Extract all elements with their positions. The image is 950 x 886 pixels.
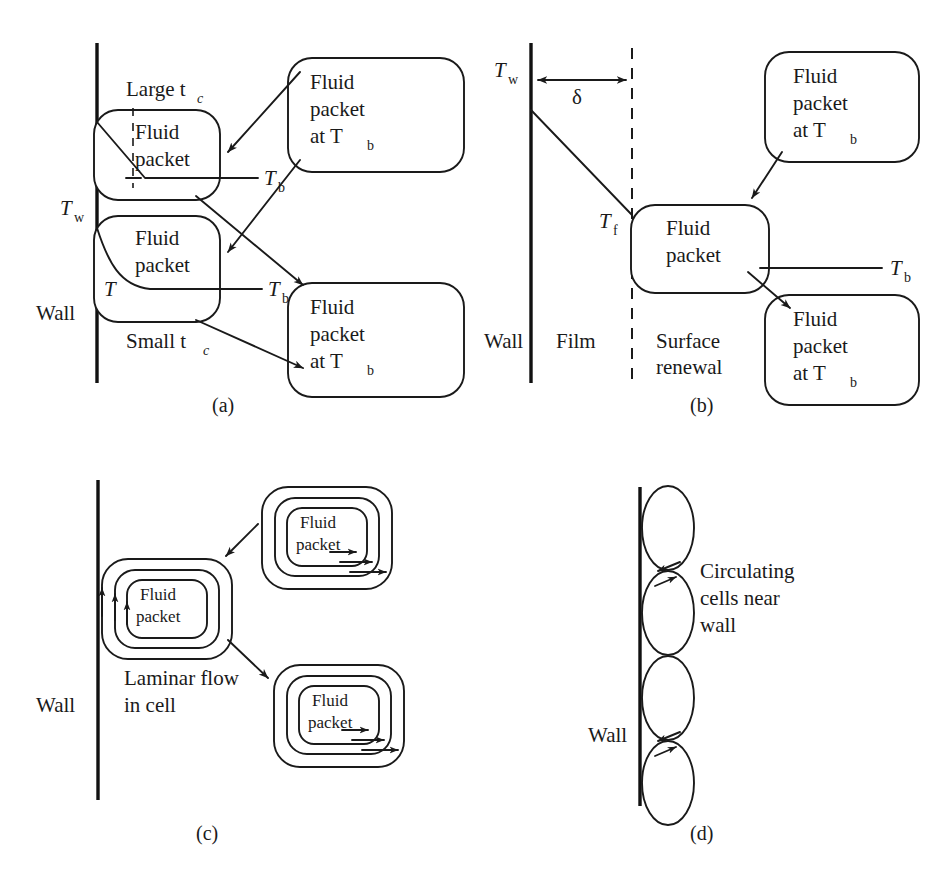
svg-text:at T: at T: [793, 118, 826, 142]
svg-text:T: T: [264, 166, 277, 190]
panel-a-lower-packet-line2: packet: [135, 253, 190, 277]
panel-b-tf-label: T f: [599, 209, 618, 238]
panel-b-zone-label-renewal: renewal: [656, 355, 723, 379]
svg-text:b: b: [367, 363, 374, 378]
panel-a-incoming-line1: Fluid: [310, 70, 355, 94]
svg-text:b: b: [904, 270, 911, 285]
panel-b-zone-label-wall: Wall: [484, 329, 523, 353]
panel-d-arrow-cell-4-up: [655, 747, 676, 756]
panel-b-tb-label: T b: [890, 256, 911, 285]
panel-b-tw-label: T w: [494, 58, 519, 87]
svg-text:b: b: [850, 132, 857, 147]
svg-text:T: T: [60, 196, 73, 220]
svg-text:T: T: [494, 58, 507, 82]
panel-a-t-label: T: [104, 277, 117, 301]
panel-a-upper-tb-label: T b: [264, 166, 285, 195]
svg-text:Small t: Small t: [126, 329, 186, 353]
panel-a-lower-packet-line1: Fluid: [135, 226, 180, 250]
panel-c-arrow-upper-to-wall-cell: [226, 524, 258, 556]
svg-text:at T: at T: [310, 124, 343, 148]
panel-b-film-edge-packet-line1: Fluid: [666, 216, 711, 240]
svg-text:b: b: [850, 375, 857, 390]
svg-text:at T: at T: [310, 349, 343, 373]
panel-d-arrow-cell-2-up: [655, 577, 676, 586]
panel-a-incoming-line2: packet: [310, 97, 365, 121]
panel-d-circulating-cell-4: [642, 741, 694, 825]
svg-text:T: T: [268, 277, 281, 301]
panel-a-tw-label: T w: [60, 196, 85, 225]
panel-a-upper-packet-line2: packet: [135, 147, 190, 171]
panel-d-label: (d): [690, 822, 713, 845]
panel-b-arrow-bulk-to-packet: [752, 152, 782, 198]
panel-a-small-tc-label: Small t c: [126, 329, 210, 358]
panel-a-lower-tb-label: T b: [268, 277, 289, 306]
panel-c-wall-cell-line1: Fluid: [140, 585, 176, 604]
panel-a: Wall T w Large t c Small t c Fluid packe…: [36, 43, 464, 417]
svg-text:T: T: [890, 256, 903, 280]
panel-b-zone-label-film: Film: [556, 329, 596, 353]
panel-a-upper-packet-line1: Fluid: [135, 120, 180, 144]
panel-b-zone-label-surface: Surface: [656, 329, 720, 353]
panel-b-outgoing-line1: Fluid: [793, 307, 838, 331]
panel-c-label: (c): [196, 822, 218, 845]
panel-d-annotation-line1: Circulating: [700, 559, 795, 583]
figure-root: Wall T w Large t c Small t c Fluid packe…: [0, 0, 950, 886]
panel-d-annotation-line2: cells near: [700, 586, 780, 610]
panel-c: Wall Fluid packet Fluid packet Fluid pac…: [36, 480, 404, 845]
panel-b-delta-label: δ: [572, 85, 582, 109]
svg-text:c: c: [197, 91, 204, 106]
panel-a-wall-label: Wall: [36, 301, 75, 325]
panel-a-label: (a): [212, 394, 234, 417]
panel-c-lower-cell-line1: Fluid: [312, 691, 348, 710]
heat-transfer-models-figure: Wall T w Large t c Small t c Fluid packe…: [0, 0, 950, 886]
svg-text:w: w: [74, 210, 85, 225]
svg-text:c: c: [203, 343, 210, 358]
panel-b-outgoing-line2: packet: [793, 334, 848, 358]
panel-b-label: (b): [690, 394, 713, 417]
panel-d: Wall Circulating cells near wall (d): [588, 486, 795, 845]
panel-b-incoming-line2: packet: [793, 91, 848, 115]
panel-c-annotation-line2: in cell: [124, 693, 176, 717]
panel-c-upper-cell-line1: Fluid: [300, 513, 336, 532]
svg-text:b: b: [367, 138, 374, 153]
panel-a-large-tc-label: Large t c: [126, 77, 204, 106]
svg-text:at T: at T: [793, 361, 826, 385]
svg-text:Large t: Large t: [126, 77, 186, 101]
panel-d-circulating-cell-3: [642, 656, 694, 740]
svg-text:w: w: [508, 72, 519, 87]
panel-b-film-temperature-profile: [531, 110, 632, 215]
panel-c-annotation-line1: Laminar flow: [124, 666, 240, 690]
panel-c-wall-label: Wall: [36, 693, 75, 717]
svg-text:T: T: [599, 209, 612, 233]
panel-b-film-edge-packet-line2: packet: [666, 243, 721, 267]
panel-d-circulating-cell-1: [642, 486, 694, 570]
panel-a-outgoing-line2: packet: [310, 322, 365, 346]
panel-d-annotation-line3: wall: [700, 613, 736, 637]
panel-a-arrow-lower-packet-to-bulk: [196, 320, 303, 368]
panel-a-outgoing-line1: Fluid: [310, 295, 355, 319]
panel-b-incoming-line1: Fluid: [793, 64, 838, 88]
panel-c-wall-cell-line2: packet: [136, 607, 181, 626]
panel-d-wall-label: Wall: [588, 723, 627, 747]
panel-b: δ T w T f T Fluid packet T b Fluid packe…: [484, 43, 919, 417]
svg-text:f: f: [613, 223, 618, 238]
panel-d-circulating-cell-2: [642, 571, 694, 655]
